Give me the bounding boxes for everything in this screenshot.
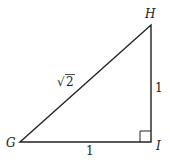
vertex-label-g: G [6,136,16,150]
side-label-gh: √ 2 [57,75,75,90]
side-label-gi: 1 [86,144,94,158]
right-angle-marker [140,131,151,142]
triangle-diagram: G H I 1 1 √ 2 [0,0,170,163]
radical-sign: √ [57,75,65,89]
radicand: 2 [66,75,74,89]
vertex-label-i: I [155,139,161,153]
triangle-ghi [20,25,151,142]
side-label-hi: 1 [155,81,163,95]
vertex-label-h: H [144,7,156,21]
